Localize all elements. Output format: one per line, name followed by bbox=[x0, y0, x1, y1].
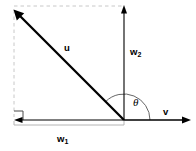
label-vector-u: u bbox=[64, 43, 70, 53]
label-w2-subscript: 2 bbox=[137, 51, 141, 58]
vector-w1-arrowhead-icon bbox=[14, 117, 23, 123]
vector-diagram-canvas bbox=[0, 0, 196, 151]
vector-diagram: u w2 w1 v θ bbox=[0, 0, 196, 151]
w1-measure-bracket-icon bbox=[14, 121, 124, 125]
label-vector-w2: w2 bbox=[130, 47, 141, 58]
vector-u-line bbox=[20, 16, 124, 120]
label-w1-subscript: 1 bbox=[64, 138, 68, 145]
label-vector-v: v bbox=[163, 107, 168, 117]
label-angle-theta: θ bbox=[133, 97, 138, 108]
vector-w2-arrowhead-icon bbox=[121, 5, 127, 14]
vector-v-arrowhead-icon bbox=[182, 117, 191, 124]
label-vector-w1: w1 bbox=[57, 134, 68, 145]
